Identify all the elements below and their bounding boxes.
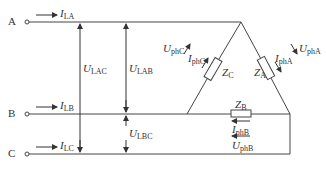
delta-leg-a-top (241, 22, 261, 59)
label-i-pha: IphA (275, 53, 292, 66)
terminal-c-label: C (8, 148, 15, 159)
label-i-lb: ILB (60, 100, 74, 113)
label-u-lbc: ULBC (129, 128, 153, 141)
label-u-phb: UphB (232, 140, 253, 153)
delta-circuit-diagram (0, 0, 326, 169)
label-i-la: ILA (60, 8, 74, 21)
delta-leg-c-top (219, 22, 241, 59)
label-u-lab: ULAB (129, 63, 153, 76)
terminal-a-node (25, 20, 29, 24)
delta-leg-c-bottom (187, 79, 207, 114)
terminal-a-label: A (8, 16, 16, 27)
label-zc: ZC (222, 67, 233, 80)
terminal-b-node (25, 112, 29, 116)
label-i-lc: ILC (60, 140, 74, 153)
label-i-phc: IphC (188, 53, 205, 66)
terminal-b-label: B (8, 108, 15, 119)
label-za: ZA (254, 67, 266, 80)
label-u-pha: UphA (299, 43, 321, 56)
label-i-phb: IphB (232, 124, 249, 137)
label-u-phc: UphC (163, 43, 184, 56)
label-u-lac: ULAC (83, 63, 107, 76)
delta-leg-a-bottom (271, 78, 290, 114)
terminal-c-node (25, 152, 29, 156)
label-zb: ZB (235, 99, 246, 112)
